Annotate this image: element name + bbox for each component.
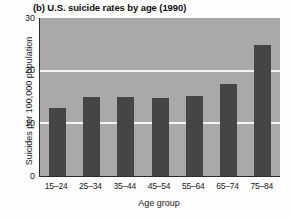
bar xyxy=(49,108,66,176)
x-axis-tick: 75–84 xyxy=(245,181,279,191)
x-axis-tick: 15–24 xyxy=(39,181,73,191)
x-axis-line xyxy=(39,176,280,177)
x-axis-tick-labels: 15–2425–3435–4445–5455–6465–7475–84 xyxy=(39,181,279,195)
x-axis-tick: 55–64 xyxy=(176,181,210,191)
bar xyxy=(152,98,169,176)
bar xyxy=(254,45,271,176)
x-axis-tick: 35–44 xyxy=(108,181,142,191)
plot-area xyxy=(39,18,280,176)
chart-figure: (b) U.S. suicide rates by age (1990) Sui… xyxy=(0,0,292,220)
bar xyxy=(117,97,134,176)
bar-series xyxy=(40,18,280,176)
bar xyxy=(186,96,203,176)
chart-title: (b) U.S. suicide rates by age (1990) xyxy=(33,2,186,13)
y-axis-tick: 30 xyxy=(15,14,35,23)
x-axis-tick: 25–34 xyxy=(73,181,107,191)
y-axis-tick: 0 xyxy=(15,172,35,181)
y-axis-tick: 20 xyxy=(15,66,35,75)
x-axis-tick: 45–54 xyxy=(142,181,176,191)
bar xyxy=(83,97,100,176)
bar xyxy=(220,84,237,176)
x-axis-label: Age group xyxy=(39,198,279,208)
x-axis-tick: 65–74 xyxy=(210,181,244,191)
y-axis-tick: 10 xyxy=(15,119,35,128)
y-axis-tick-labels: 0102030 xyxy=(14,0,35,220)
